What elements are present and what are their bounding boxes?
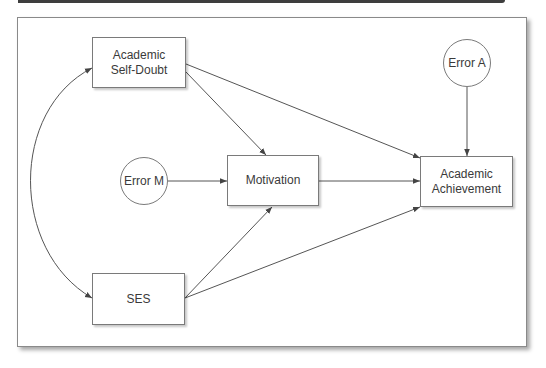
node-label: Error M bbox=[124, 174, 164, 189]
edge-ses-motivation bbox=[185, 207, 272, 298]
node-ses: SES bbox=[92, 273, 185, 325]
edge-selfdoubt-achievement bbox=[186, 64, 420, 158]
node-label: Motivation bbox=[246, 173, 301, 188]
edge-ses-achievement bbox=[185, 207, 420, 298]
edge-selfdoubt-ses-correlation bbox=[31, 68, 93, 298]
node-label: Academic Achievement bbox=[432, 167, 501, 197]
node-error-a: Error A bbox=[443, 39, 491, 87]
node-label: Error A bbox=[448, 56, 485, 71]
edge-selfdoubt-motivation bbox=[186, 72, 266, 155]
node-label: Academic Self-Doubt bbox=[111, 48, 168, 78]
node-label: SES bbox=[126, 292, 150, 307]
node-academic-self-doubt: Academic Self-Doubt bbox=[92, 37, 186, 88]
node-error-m: Error M bbox=[120, 157, 168, 205]
node-academic-achievement: Academic Achievement bbox=[420, 156, 513, 207]
node-motivation: Motivation bbox=[227, 155, 319, 206]
